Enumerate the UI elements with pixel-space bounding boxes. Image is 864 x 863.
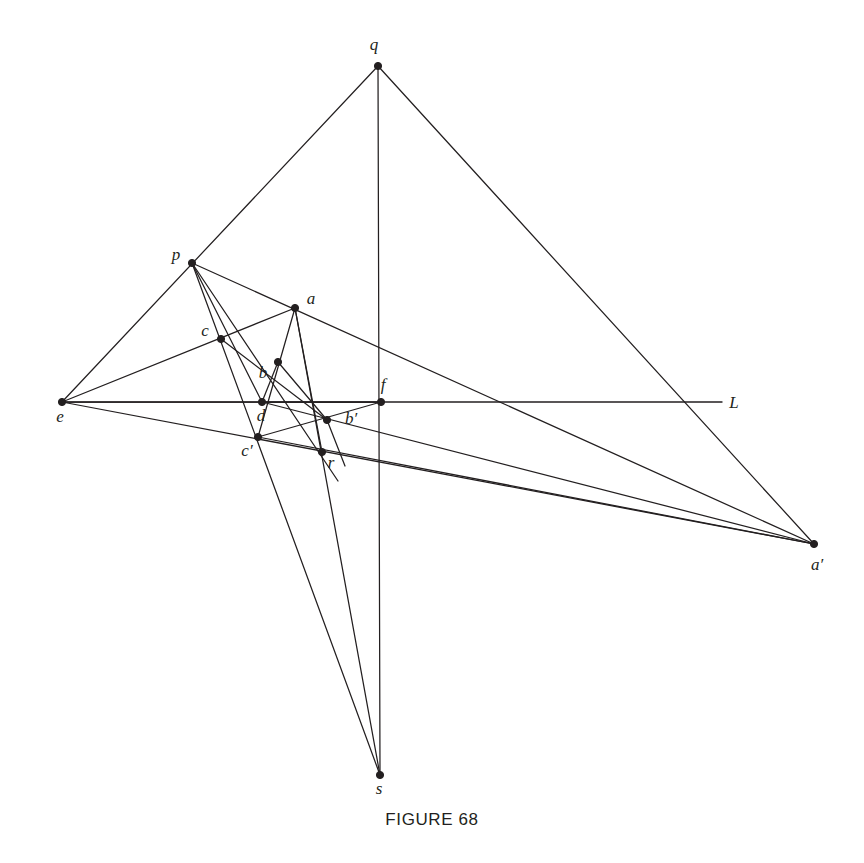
geo-segment-q-to-a-to-s — [378, 66, 380, 775]
vertex-bp — [323, 416, 330, 423]
vertex-label-c: c — [201, 321, 209, 340]
vertex-label-p: p — [171, 245, 181, 264]
vertex-label-bp: b′ — [345, 409, 358, 428]
vertices-layer — [58, 62, 817, 778]
vertex-d — [258, 398, 265, 405]
vertex-q — [374, 62, 381, 69]
geo-segment-p-to-a-to-aprime — [192, 263, 814, 544]
vertex-s — [376, 771, 383, 778]
geo-segment-cprime-to-bprime-to-f — [258, 402, 381, 437]
vertex-labels-layer: qpacbfedb′c′ra′s — [56, 35, 823, 798]
geo-segment-a-to-r — [295, 308, 322, 452]
vertex-p — [188, 259, 195, 266]
geo-segment-b-to-bprime — [278, 362, 327, 420]
vertex-r — [318, 448, 325, 455]
vertex-cp — [254, 433, 261, 440]
vertex-label-a: a — [307, 289, 316, 308]
vertex-label-s: s — [376, 779, 383, 798]
geo-segment-e-to-c-to-a — [62, 308, 295, 402]
geometry-diagram: L qpacbfedb′c′ra′s — [0, 0, 864, 863]
figure-caption: FIGURE 68 — [0, 810, 864, 830]
vertex-b — [274, 358, 281, 365]
vertex-label-d: d — [257, 406, 266, 425]
geo-segment-e-to-p-to-q — [62, 66, 378, 402]
vertex-f — [377, 398, 384, 405]
vertex-label-ap: a′ — [811, 555, 824, 574]
figure-container: L qpacbfedb′c′ra′s FIGURE 68 — [0, 0, 864, 863]
vertex-label-b: b — [259, 363, 268, 382]
vertex-label-q: q — [370, 35, 379, 54]
vertex-e — [58, 398, 65, 405]
vertex-ap — [810, 540, 817, 547]
vertex-label-cp: c′ — [241, 441, 253, 460]
vertex-label-r: r — [328, 453, 335, 472]
vertex-a — [291, 304, 298, 311]
vertex-label-e: e — [56, 407, 64, 426]
vertex-label-f: f — [381, 375, 388, 394]
lines-layer — [62, 66, 814, 775]
vertex-c — [217, 335, 224, 342]
axis-line-layer: L — [62, 393, 739, 412]
line-L-label: L — [728, 393, 738, 412]
